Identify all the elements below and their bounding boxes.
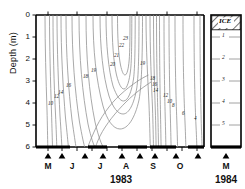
contour-label: 18	[83, 74, 88, 79]
sample-markers	[45, 153, 202, 159]
contour-label: 19	[91, 68, 96, 73]
contour-label: 23	[123, 36, 128, 41]
y-tick-5: 5	[18, 120, 30, 129]
month-label-aug: A	[119, 161, 133, 171]
contour-label: 19	[140, 61, 145, 66]
right-tick-1: 1	[222, 32, 225, 38]
month-label-oct: O	[173, 161, 187, 171]
contour-label: 16	[66, 83, 71, 88]
year-label-1984: 1984	[201, 174, 245, 185]
month-label-may: M	[41, 161, 55, 171]
month-label-sep: S	[146, 161, 160, 171]
y-tick-4: 4	[18, 98, 30, 107]
right-sample-marker	[223, 153, 230, 159]
contour-label: 20	[110, 62, 115, 67]
right-tick-3: 3	[222, 76, 225, 82]
ice-label: ICE	[219, 17, 231, 25]
y-tick-0: 0	[18, 10, 30, 19]
contour-label: 4	[194, 116, 197, 121]
contour-label: 6	[182, 111, 185, 116]
year-label-1983: 1983	[96, 174, 146, 185]
y-axis-label: Depth (m)	[8, 18, 18, 88]
contour-label: 14	[58, 90, 63, 95]
y-tick-6: 6	[18, 142, 30, 151]
right-tick-2: 2	[222, 54, 225, 60]
y-tick-3: 3	[18, 76, 30, 85]
y-tick-2: 2	[18, 54, 30, 63]
contour-label: 21	[114, 53, 119, 58]
contour-label: 14	[153, 88, 158, 93]
month-label-jun: J	[65, 161, 79, 171]
contour-label: 22	[119, 43, 124, 48]
month-label-may-1984: M	[219, 161, 233, 171]
y-tick-1: 1	[18, 32, 30, 41]
month-label-jul: J	[93, 161, 107, 171]
contour-label: 8	[172, 103, 175, 108]
right-tick-4: 4	[222, 98, 225, 104]
right-tick-5: 5	[222, 120, 225, 126]
contour-label: 10	[48, 101, 53, 106]
